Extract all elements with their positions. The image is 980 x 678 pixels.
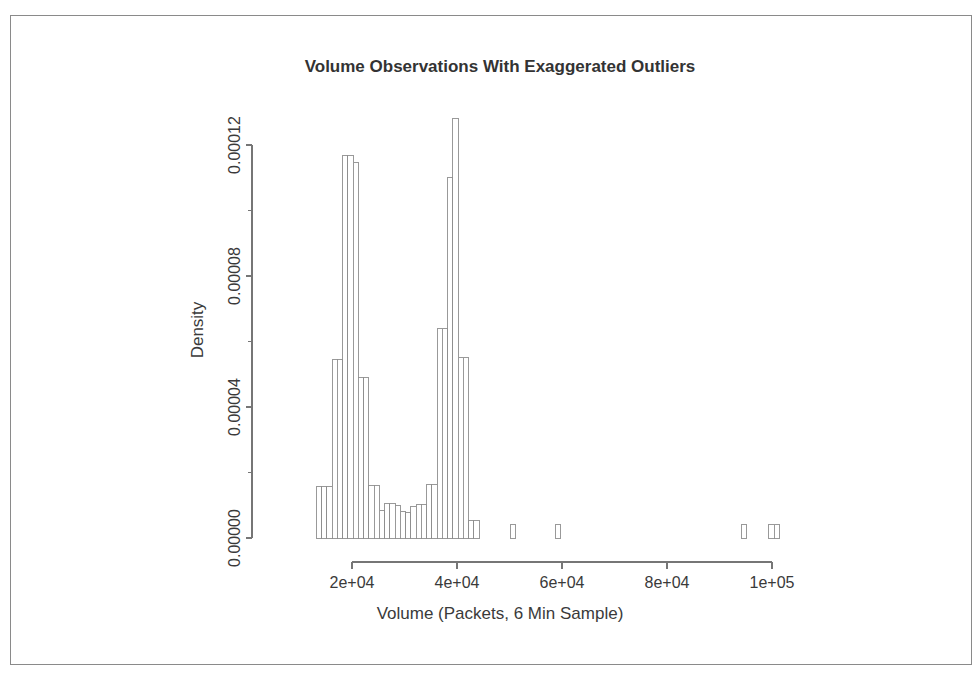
x-tick-label: 8e+04 [645, 574, 690, 591]
histogram-chart: Volume Observations With Exaggerated Out… [0, 0, 980, 678]
histogram-bar [337, 360, 342, 538]
histogram-bar [469, 521, 474, 538]
histogram-bar [432, 485, 437, 538]
chart-title: Volume Observations With Exaggerated Out… [305, 57, 696, 76]
histogram-bar [322, 486, 327, 538]
histogram-bar [369, 486, 374, 538]
histogram-bar [385, 504, 390, 538]
x-tick-label: 2e+04 [330, 574, 375, 591]
y-tick-label: 0.00012 [226, 116, 243, 174]
histogram-bar [316, 486, 321, 538]
histogram-bar [442, 328, 447, 538]
x-tick-label: 1e+05 [750, 574, 795, 591]
histogram-bar [474, 521, 479, 538]
histogram-bar [453, 119, 458, 538]
histogram-bar [421, 505, 426, 538]
x-axis-title: Volume (Packets, 6 Min Sample) [377, 604, 624, 623]
histogram-bar [437, 328, 442, 538]
histogram-bar [379, 510, 384, 538]
histogram-bar [400, 511, 405, 538]
histogram-bar [332, 360, 337, 538]
y-axis-title: Density [188, 301, 207, 358]
histogram-bar [742, 524, 747, 538]
histogram-bar [511, 524, 516, 538]
histogram-bar [416, 505, 421, 538]
y-tick-label: 0.00000 [226, 509, 243, 567]
chart-axes: 0.000000.000040.000080.000122e+044e+046e… [226, 116, 795, 591]
histogram-bar [390, 504, 395, 538]
histogram-bar [448, 178, 453, 538]
histogram-bar [364, 378, 369, 538]
histogram-bar [774, 524, 779, 538]
x-tick-label: 6e+04 [540, 574, 585, 591]
histogram-bar [427, 485, 432, 538]
histogram-bar [348, 155, 353, 538]
y-tick-label: 0.00008 [226, 247, 243, 305]
histogram-bar [395, 506, 400, 538]
x-tick-label: 4e+04 [435, 574, 480, 591]
histogram-bar [353, 162, 358, 538]
histogram-bar [458, 357, 463, 538]
histogram-bars [316, 119, 779, 538]
histogram-bar [769, 524, 774, 538]
histogram-bar [327, 486, 332, 538]
histogram-bar [374, 486, 379, 538]
histogram-bar [555, 524, 560, 538]
histogram-bar [411, 507, 416, 538]
histogram-bar [358, 378, 363, 538]
histogram-bar [463, 357, 468, 538]
y-tick-label: 0.00004 [226, 378, 243, 436]
histogram-bar [406, 512, 411, 538]
histogram-bar [343, 155, 348, 538]
